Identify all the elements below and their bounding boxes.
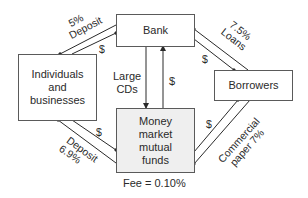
edge-individuals-fund-money: $ — [96, 127, 102, 138]
node-bank-label: Bank — [143, 24, 168, 37]
node-individuals-line3: businesses — [30, 94, 85, 107]
edge-bank-fund-label-line2: CDs — [113, 83, 141, 96]
node-money-market-funds: Money market mutual funds — [116, 108, 195, 173]
node-borrowers: Borrowers — [214, 70, 293, 101]
edge-individuals-bank-money: $ — [99, 44, 105, 55]
fee-label: Fee = 0.10% — [123, 178, 186, 189]
node-borrowers-label: Borrowers — [228, 79, 278, 92]
node-individuals-line1: Individuals — [32, 68, 84, 81]
edge-bank-borrowers-money: $ — [202, 54, 208, 65]
node-bank: Bank — [116, 14, 195, 47]
node-fund-line4: funds — [142, 154, 169, 167]
node-fund-line3: mutual — [139, 141, 172, 154]
edge-bank-fund-money: $ — [169, 76, 175, 87]
node-individuals-businesses: Individuals and businesses — [18, 54, 97, 121]
edge-fund-borrowers-money: $ — [206, 119, 212, 130]
edge-bank-fund-label-line1: Large — [113, 70, 141, 83]
node-individuals-line2: and — [48, 81, 66, 94]
node-fund-line2: market — [139, 128, 173, 141]
edge-bank-fund-text: Large CDs — [113, 70, 141, 96]
node-fund-line1: Money — [139, 115, 172, 128]
